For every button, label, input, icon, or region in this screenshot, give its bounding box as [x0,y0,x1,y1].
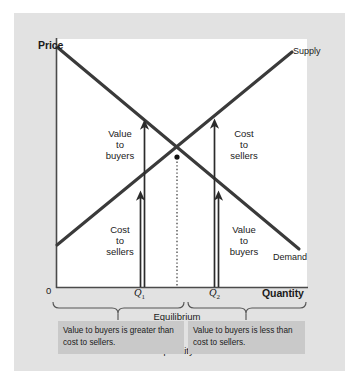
tick-label-q2: Q2 [209,287,220,302]
annotation-cost-to-sellers-left: Cost to sellers [100,224,140,258]
supply-curve-label: Supply [293,46,321,56]
caption-right: Value to buyers is less than cost to sel… [188,321,305,354]
annotation-value-to-buyers-right: Value to buyers [224,224,264,258]
tick-label-q1: Q1 [134,287,145,302]
q1-subscript: 1 [142,293,146,301]
x-axis-title: Quantity [262,288,304,300]
origin-label: 0 [46,286,51,297]
annotation-cost-to-sellers-right: Cost to sellers [224,128,264,162]
y-axis-title: Price [38,40,63,52]
q2-symbol: Q [209,287,217,298]
annotation-value-to-buyers-left: Value to buyers [100,128,140,162]
caption-left: Value to buyers is greater than cost to … [58,321,184,354]
supply-demand-figure: Price Quantity 0 Supply Demand Q1 Q2 Equ… [0,0,357,384]
q2-subscript: 2 [217,293,221,301]
q1-symbol: Q [134,287,142,298]
demand-curve-label: Demand [273,252,307,262]
